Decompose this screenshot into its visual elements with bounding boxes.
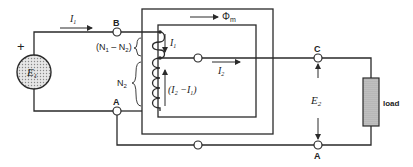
node-b <box>113 28 121 36</box>
current-i1-label: I1 <box>69 13 76 25</box>
common-winding-label: N2 <box>117 78 128 89</box>
node-c-label: C <box>314 44 321 54</box>
core-outer <box>142 9 273 134</box>
node-a-left <box>113 107 121 115</box>
source-polarity: + <box>17 39 25 54</box>
node-a-right <box>314 141 322 149</box>
load-label: load <box>383 99 400 108</box>
wire-common-return <box>117 115 314 145</box>
node-a-left-label: A <box>113 97 120 107</box>
node-c <box>314 54 322 62</box>
series-winding-label: (N1 – N2) <box>96 42 132 53</box>
current-i1-down-label: I1 <box>169 37 176 49</box>
wire-return-right <box>322 126 371 145</box>
autotransformer-diagram: E1 + B A C A I1 Φm I1 I2 (I2 −I1) (N1 – … <box>0 0 413 167</box>
node-a-right-label: A <box>314 151 321 161</box>
flux-label: Φm <box>222 11 236 23</box>
wire-c-to-load <box>322 58 371 78</box>
current-common-label: (I2 −I1) <box>168 84 197 96</box>
node-tap <box>194 54 202 62</box>
e2-label: E2 <box>310 94 322 108</box>
node-return-mid <box>194 141 202 149</box>
node-b-label: B <box>113 18 120 28</box>
common-winding <box>153 58 161 111</box>
wire-source-bottom <box>34 89 113 111</box>
load-resistor <box>363 78 379 126</box>
current-i2-label: I2 <box>217 65 224 77</box>
